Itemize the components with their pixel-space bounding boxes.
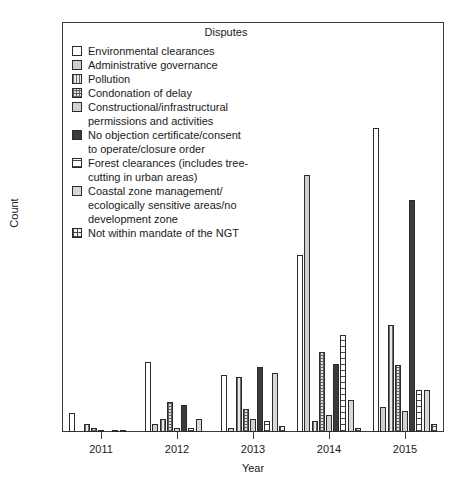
bar xyxy=(355,428,361,432)
x-tick-label: 2011 xyxy=(89,443,113,455)
bar xyxy=(333,364,339,432)
bar xyxy=(409,200,415,432)
bar xyxy=(312,421,318,432)
bar xyxy=(279,426,285,432)
bar xyxy=(120,430,126,432)
legend-swatch-icon xyxy=(72,102,82,112)
legend-swatch-icon xyxy=(72,186,82,196)
bar xyxy=(160,419,166,432)
legend-label: Environmental clearances xyxy=(88,44,215,58)
bar xyxy=(297,255,303,432)
legend-label: Pollution xyxy=(88,72,130,86)
legend-label: Condonation of delay xyxy=(88,86,192,100)
bar xyxy=(326,415,332,432)
x-tick-label: 2015 xyxy=(393,443,417,455)
legend-swatch-icon xyxy=(72,158,82,168)
bar xyxy=(373,128,379,432)
legend-label-continuation: to operate/closure order xyxy=(88,142,312,156)
legend-title: Disputes xyxy=(140,26,312,38)
bar xyxy=(228,428,234,432)
bar xyxy=(424,390,430,432)
bar xyxy=(395,365,401,432)
legend-item: Pollution xyxy=(72,72,312,86)
legend-swatch-icon xyxy=(72,74,82,84)
x-tick xyxy=(177,432,178,439)
legend-item: Condonation of delay xyxy=(72,86,312,100)
bar xyxy=(243,409,249,432)
legend-swatch-icon xyxy=(72,228,82,238)
bar xyxy=(84,424,90,432)
x-tick xyxy=(329,432,330,439)
bar xyxy=(236,377,242,432)
bar xyxy=(416,390,422,432)
bar xyxy=(380,407,386,432)
bar xyxy=(257,367,263,432)
bar xyxy=(145,362,151,432)
bar xyxy=(69,413,75,432)
bar xyxy=(272,373,278,432)
legend-swatch-icon xyxy=(72,130,82,140)
x-tick-label: 2014 xyxy=(317,443,341,455)
legend-label-continuation: ecologically sensitive areas/no xyxy=(88,198,312,212)
legend-swatch-icon xyxy=(72,88,82,98)
bar xyxy=(167,402,173,432)
legend-label: Forest clearances (includes tree- xyxy=(88,156,248,170)
legend-label-continuation: cutting in urban areas) xyxy=(88,170,312,184)
legend-label: Coastal zone management/ xyxy=(88,184,223,198)
bar xyxy=(340,335,346,432)
x-tick-label: 2013 xyxy=(241,443,265,455)
legend-label: Not within mandate of the NGT xyxy=(88,226,239,240)
x-tick xyxy=(101,432,102,439)
x-tick xyxy=(405,432,406,439)
bar xyxy=(319,352,325,432)
bar xyxy=(388,325,394,432)
legend-label: No objection certificate/consent xyxy=(88,128,241,142)
legend: Disputes Environmental clearancesAdminis… xyxy=(72,26,312,240)
x-tick-label: 2012 xyxy=(165,443,189,455)
bar xyxy=(431,424,437,432)
legend-item: Administrative governance xyxy=(72,58,312,72)
legend-label: Administrative governance xyxy=(88,58,218,72)
bar xyxy=(264,421,270,432)
bar xyxy=(181,405,187,432)
bar xyxy=(196,419,202,432)
legend-swatch-icon xyxy=(72,60,82,70)
legend-item: Forest clearances (includes tree- xyxy=(72,156,312,170)
legend-label-continuation: development zone xyxy=(88,212,312,226)
legend-swatch-icon xyxy=(72,46,82,56)
x-axis-title: Year xyxy=(242,462,264,474)
bar xyxy=(152,424,158,432)
bar xyxy=(250,419,256,432)
bar xyxy=(112,430,118,432)
bar xyxy=(402,411,408,432)
x-tick xyxy=(253,432,254,439)
bar xyxy=(188,428,194,432)
legend-item: Coastal zone management/ xyxy=(72,184,312,198)
legend-item: Not within mandate of the NGT xyxy=(72,226,312,240)
legend-label: Constructional/infrastructural xyxy=(88,100,228,114)
legend-item: No objection certificate/consent xyxy=(72,128,312,142)
legend-label-continuation: permissions and activities xyxy=(88,114,312,128)
bar xyxy=(91,428,97,432)
legend-item: Constructional/infrastructural xyxy=(72,100,312,114)
chart-root: Count 050100150200 Disputes Environmenta… xyxy=(0,0,454,481)
legend-item: Environmental clearances xyxy=(72,44,312,58)
bar xyxy=(348,400,354,432)
legend-rows: Environmental clearancesAdministrative g… xyxy=(72,44,312,240)
bar xyxy=(221,375,227,432)
